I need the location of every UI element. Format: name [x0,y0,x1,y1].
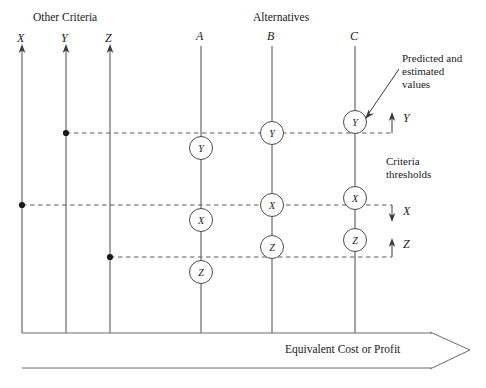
header-other-criteria: Other Criteria [33,11,97,25]
svg-text:Z: Z [269,242,275,253]
node-c-x: X [344,187,367,210]
annotation-predicted-line-3: values [402,78,430,91]
node-b-y: Y [261,122,284,145]
svg-text:Z: Z [352,235,358,246]
annotation-predicted-line-1: Predicted and [402,52,462,65]
node-a-z: Z [190,261,213,284]
threshold-line-z [107,254,392,260]
criteria-axis-label-y: Y [61,31,68,45]
criteria-axis-x [19,44,26,333]
node-c-z: Z [344,229,367,252]
svg-text:X: X [351,193,359,204]
threshold-indicator-label-y: Y [403,111,410,125]
svg-text:Z: Z [198,267,204,278]
node-c-y: Y [344,111,367,134]
criteria-axis-label-z: Z [105,31,112,45]
annotation-predicted-line-2: estimated [402,65,444,78]
annotation-criteria-thresholds-line-2: thresholds [386,168,431,181]
alternative-axis-label-a: A [196,29,203,43]
node-b-x: X [261,194,284,217]
node-b-z: Z [261,236,284,259]
threshold-indicator-y [389,112,396,133]
annotation-criteria-thresholds-line-1: Criteria [386,155,420,168]
criteria-axis-label-x: X [17,31,24,45]
criteria-axis-y [63,44,70,333]
threshold-line-x [19,202,392,208]
equivalent-cost-arrow [22,332,470,369]
baseline-label: Equivalent Cost or Profit [285,343,400,357]
threshold-indicator-label-z: Z [403,237,410,251]
header-alternatives: Alternatives [253,11,309,25]
threshold-indicator-z [389,238,396,257]
svg-text:X: X [197,215,205,226]
alternative-axis-label-c: C [350,29,358,43]
node-a-y: Y [190,137,213,160]
threshold-indicator-x [389,205,396,222]
criteria-axis-z [107,44,114,333]
figure-canvas: Y X Z Y X Z Y X [0,0,486,388]
callout-arrow-predicted [365,69,399,119]
alternative-axis-label-b: B [267,29,274,43]
threshold-indicator-label-x: X [403,204,410,218]
threshold-line-y [63,130,392,136]
node-a-x: X [190,209,213,232]
svg-text:X: X [268,200,276,211]
